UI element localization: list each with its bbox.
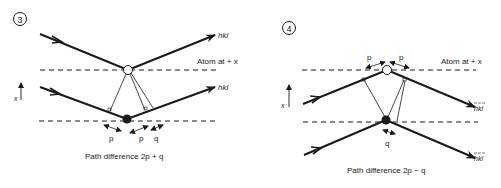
path-difference-caption: Path difference 2p − q xyxy=(347,166,425,175)
path-difference-caption: Path difference 2p + q xyxy=(85,152,163,161)
atom-open xyxy=(124,66,133,75)
atom-filled xyxy=(382,116,391,125)
segment-label-p: p xyxy=(399,53,404,62)
diffracted-ray-bottom xyxy=(386,120,475,158)
perpendicular-line xyxy=(364,80,385,117)
diffracted-ray-bottom xyxy=(127,87,215,119)
incident-ray-bottom xyxy=(304,120,386,155)
segment-arrow-p-right xyxy=(130,126,148,133)
atom-label: Atom at + x xyxy=(441,57,482,66)
incident-ray-bottom xyxy=(40,87,127,119)
segment-arrow-p-left xyxy=(366,62,385,68)
segment-label-p: p xyxy=(109,134,114,143)
x-axis-label: x xyxy=(13,95,18,102)
hkl-bar-label-bottom: hkl xyxy=(474,153,486,162)
segment-arrow-p-right xyxy=(390,62,409,68)
panel-number: 3 xyxy=(17,15,22,25)
segment-label-p: p xyxy=(367,53,372,62)
hkl-label-top: hkl xyxy=(218,31,228,40)
panel-4: 4 hkl hkl Atom at + x x xyxy=(280,22,486,176)
atom-label: Atom at + x xyxy=(197,57,238,66)
diffraction-diagram: 3 hkl hkl Atom at + x x p p q xyxy=(0,0,501,188)
panel-number: 4 xyxy=(286,24,291,34)
segment-arrow-q xyxy=(151,125,163,130)
svg-text:hkl: hkl xyxy=(474,155,483,162)
segment-label-q: q xyxy=(154,134,158,143)
hkl-bar-label-top: hkl xyxy=(474,103,486,112)
segment-arrow-p-left xyxy=(104,125,121,131)
atom-open xyxy=(383,66,392,75)
svg-text:hkl: hkl xyxy=(474,105,483,112)
panel-3: 3 hkl hkl Atom at + x x p p q xyxy=(13,13,238,162)
panel-number-badge: 4 xyxy=(283,22,296,35)
incident-ray-top xyxy=(40,34,128,70)
segment-label-q: q xyxy=(385,139,389,148)
hkl-label-bottom: hkl xyxy=(218,83,228,92)
segment-arrow-q xyxy=(383,130,395,134)
atom-filled xyxy=(123,115,132,124)
perpendicular-line xyxy=(110,74,126,111)
panel-number-badge: 3 xyxy=(14,13,27,26)
segment-label-p: p xyxy=(139,134,144,143)
x-axis-label: x xyxy=(280,102,285,109)
